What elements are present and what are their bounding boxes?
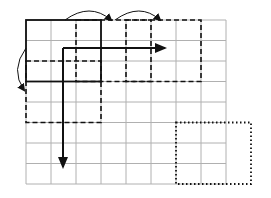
dashed-window-right-2 — [126, 20, 201, 82]
arrows — [17, 11, 165, 167]
dashed-window-right-1 — [76, 20, 151, 82]
sliding-window-diagram — [0, 0, 271, 198]
stride-arrow-right-2 — [115, 11, 160, 20]
stride-arrow-right-1 — [65, 11, 111, 20]
dotted-window-final — [176, 123, 251, 185]
stride-arrow-down — [17, 48, 26, 90]
